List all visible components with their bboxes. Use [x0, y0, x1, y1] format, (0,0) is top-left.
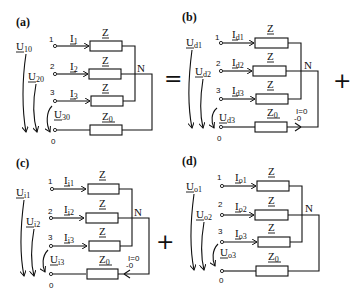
terminal-2: [53, 72, 56, 75]
svg-text:2: 2: [216, 59, 221, 68]
panel-c: (c) Ui1 Ui2 Ui3 1 2 3 0 Ii1 Ii2 Ii3 Z Z: [16, 156, 149, 290]
svg-text:Z: Z: [268, 221, 275, 233]
svg-text:Z: Z: [102, 26, 109, 38]
svg-text:N: N: [305, 202, 313, 214]
svg-text:Z: Z: [99, 197, 106, 209]
svg-text:1: 1: [48, 177, 53, 186]
svg-text:3: 3: [218, 227, 223, 236]
terminal-1: [53, 44, 56, 47]
svg-text:3: 3: [216, 86, 221, 95]
neutral-label: N: [137, 62, 145, 74]
terminal-0: [53, 128, 56, 131]
svg-text:Z: Z: [268, 165, 275, 177]
terminal-label-0: 0: [51, 137, 56, 146]
svg-text:-0: -0: [294, 114, 302, 123]
terminal-3: [53, 99, 56, 102]
svg-text:-0: -0: [126, 261, 134, 270]
panel-label-c: (c): [16, 156, 29, 170]
circuit-figure: (a) U10 U20 U30 1 2 3 0 I1 I2 I3: [0, 0, 360, 300]
equals-sign: =: [164, 66, 182, 91]
panel-label-b: (b): [182, 10, 197, 24]
svg-text:1: 1: [215, 33, 220, 42]
svg-text:Z: Z: [267, 78, 274, 90]
svg-text:N: N: [134, 206, 142, 218]
terminal-label-1: 1: [49, 35, 54, 44]
svg-text:2: 2: [48, 207, 53, 216]
plus-sign-bottom: +: [156, 229, 174, 254]
voltage-arrow-1: [23, 54, 26, 132]
panel-b: (b) Ud1 Ud2 Ud3 1 2 3 0 Id1 Id2 Id3 Z Z: [182, 10, 318, 143]
terminal-label-2: 2: [50, 62, 55, 71]
svg-text:Z: Z: [102, 81, 109, 93]
svg-text:Z: Z: [102, 54, 109, 66]
impedance-0: [90, 125, 122, 135]
panel-label-a: (a): [16, 15, 30, 29]
panel-a: (a) U10 U20 U30 1 2 3 0 I1 I2 I3: [16, 15, 152, 146]
panel-label-d: (d): [182, 154, 197, 168]
impedance-1: [90, 41, 122, 51]
svg-text:Z: Z: [99, 168, 106, 180]
svg-text:N: N: [304, 59, 312, 71]
voltage-arrow-2: [34, 84, 37, 132]
panel-d: (d) Uo1 Uo2 Uo3 1 2 3 0 Io1 Io2 Io3 Z Z: [182, 154, 319, 285]
svg-text:2: 2: [218, 200, 223, 209]
svg-text:0: 0: [217, 134, 222, 143]
svg-text:Z: Z: [99, 225, 106, 237]
svg-text:0: 0: [219, 276, 224, 285]
terminal-label-3: 3: [50, 88, 55, 97]
svg-text:Z: Z: [268, 194, 275, 206]
svg-text:0: 0: [49, 281, 54, 290]
voltage-arrow-3: [47, 106, 52, 132]
svg-text:1: 1: [217, 173, 222, 182]
svg-text:Z: Z: [267, 22, 274, 34]
impedance-3: [91, 96, 123, 106]
plus-sign-top: +: [333, 68, 351, 93]
impedance-2: [89, 69, 121, 79]
svg-text:Z: Z: [267, 50, 274, 62]
svg-text:3: 3: [48, 233, 53, 242]
